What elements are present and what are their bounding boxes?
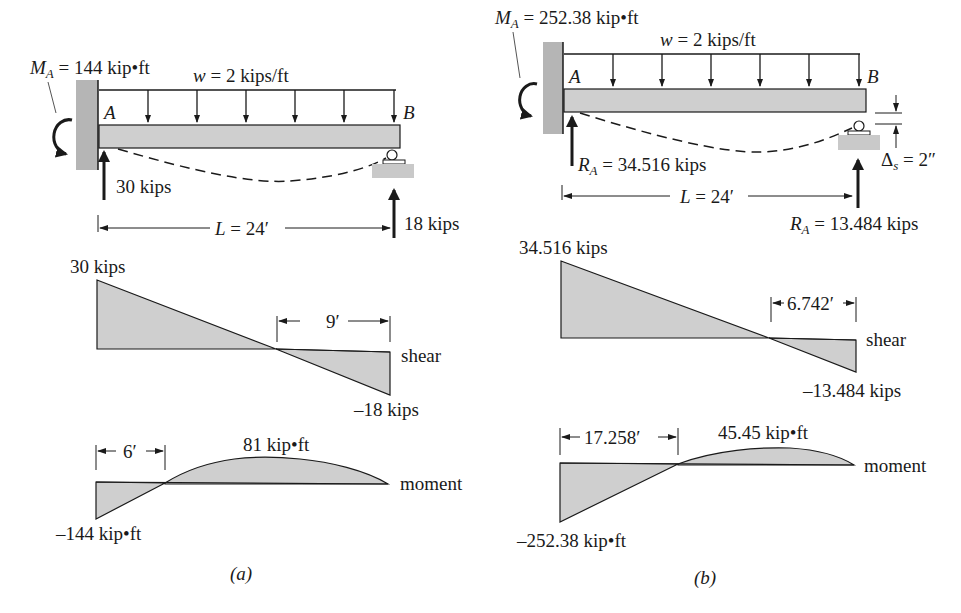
ground-a	[372, 164, 414, 178]
roller-a	[387, 150, 397, 160]
beam-a	[99, 125, 400, 148]
reaction-a-label: 30 kips	[116, 177, 171, 196]
moment-label-b: MA = 252.38 kip•ft	[495, 8, 639, 30]
load-label-a: w = 2 kips/ft	[193, 66, 289, 85]
moment-dim-label-a: 6′	[123, 442, 137, 461]
caption-a: (a)	[230, 564, 252, 583]
reaction-a-label-b: RA = 34.516 kips	[578, 155, 706, 177]
distributed-load-arrows	[148, 90, 394, 122]
ground-b	[838, 135, 880, 150]
reaction-b-label-b: RA = 13.484 kips	[790, 214, 918, 236]
point-b-label-b: B	[867, 67, 879, 86]
moment-arrow-icon	[54, 120, 72, 154]
moment-arrow-icon	[520, 84, 537, 116]
moment-dim-label-b: 17.258′	[584, 428, 640, 447]
moment-min-label-b: –252.38 kip•ft	[517, 531, 626, 550]
moment-label-a: MA = 144 kip•ft	[30, 58, 150, 80]
deflected-shape-b	[580, 113, 852, 152]
shear-max-label-b: 34.516 kips	[519, 238, 608, 257]
span-label-a: L = 24′	[215, 219, 269, 238]
moment-max-label-a: 81 kip•ft	[243, 435, 309, 454]
shear-dim-label-a: 9′	[326, 312, 340, 331]
roller-b	[854, 121, 864, 131]
moment-max-label-b: 45.45 kip•ft	[718, 423, 808, 442]
panel-a-moment-diagram	[96, 445, 388, 519]
caption-b: (b)	[694, 568, 716, 587]
shear-max-label-a: 30 kips	[70, 257, 125, 276]
beam-b	[564, 89, 866, 112]
shear-name-label-b: shear	[866, 330, 906, 349]
shear-name-label-a: shear	[401, 346, 441, 365]
panel-b-shear-diagram	[561, 261, 856, 372]
settlement-label: Δs = 2″	[881, 150, 936, 172]
distributed-load-arrows	[613, 54, 859, 86]
reaction-b-label: 18 kips	[404, 214, 459, 233]
panel-a-beam	[48, 80, 414, 238]
panel-b-beam	[513, 32, 902, 208]
shear-min-label-a: –18 kips	[354, 400, 419, 419]
load-label-b: w = 2 kips/ft	[660, 30, 756, 49]
fixed-wall-a	[76, 80, 98, 170]
shear-min-label-b: –13.484 kips	[803, 381, 901, 400]
shear-dim-label-b: 6.742′	[787, 294, 834, 313]
panel-a-shear-diagram	[97, 280, 390, 395]
point-b-label: B	[403, 103, 415, 122]
moment-name-label-a: moment	[400, 474, 462, 493]
span-label-b: L = 24′	[680, 187, 734, 206]
moment-name-label-b: moment	[864, 456, 926, 475]
point-a-label: A	[104, 103, 116, 122]
moment-min-label-a: –144 kip•ft	[56, 524, 141, 543]
fixed-wall-b	[543, 42, 563, 134]
beam-diagram-figure: MA = 144 kip•ft w = 2 kips/ft A B 30 kip…	[0, 0, 961, 613]
point-a-label-b: A	[569, 67, 581, 86]
